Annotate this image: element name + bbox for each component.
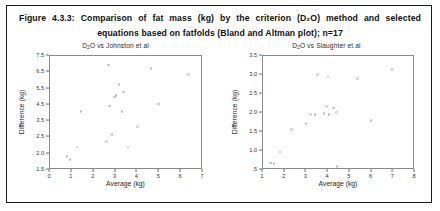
y-tick-mark	[46, 103, 49, 104]
data-point	[309, 113, 312, 116]
y-tick-label: 1.0	[220, 147, 257, 153]
figure-caption: Figure 4.3.3: Comparison of fat mass (kg…	[19, 12, 421, 40]
x-tick-label: 8	[412, 173, 415, 179]
data-point	[356, 77, 359, 80]
y-tick-mark	[259, 131, 262, 132]
data-point	[105, 140, 108, 143]
x-tick-label: 6	[179, 173, 182, 179]
data-point	[111, 133, 114, 136]
y-tick-label: 2.5	[9, 133, 44, 139]
x-tick-mark	[370, 169, 371, 172]
y-tick-mark	[259, 150, 262, 151]
x-tick-mark	[202, 169, 203, 172]
y-tick-label: 1.5	[220, 128, 257, 134]
data-point	[269, 162, 272, 165]
data-point	[325, 105, 328, 108]
y-axis-title: Difference (kg)	[231, 55, 238, 169]
panel-title-johnston: D2O vs Johnston et al	[9, 42, 222, 50]
x-tick-label: 2	[91, 173, 94, 179]
y-tick-label: 3.5	[220, 52, 257, 58]
y-tick-label: 6.5	[9, 68, 44, 74]
x-tick-label: 1	[260, 173, 263, 179]
y-tick-mark	[46, 55, 49, 56]
y-tick-mark	[46, 120, 49, 121]
figure-caption-line-2: equations based on fatfolds (Bland and A…	[19, 27, 421, 41]
x-tick-mark	[414, 169, 415, 172]
x-tick-mark	[392, 169, 393, 172]
data-point	[391, 68, 394, 71]
x-tick-mark	[180, 169, 181, 172]
y-tick-mark	[259, 74, 262, 75]
x-tick-label: 3	[113, 173, 116, 179]
figure-frame: Figure 4.3.3: Comparison of fat mass (kg…	[6, 5, 432, 203]
data-point	[66, 155, 69, 158]
scatter-panel-slaughter: D2O vs Slaughter et al .51.01.52.02.53.0…	[220, 42, 433, 210]
x-tick-label: 0	[47, 173, 50, 179]
data-point	[121, 110, 124, 113]
panel-title-slaughter: D2O vs Slaughter et al	[220, 42, 433, 50]
y-tick-mark	[259, 93, 262, 94]
x-tick-label: 6	[369, 173, 372, 179]
y-axis-title: Difference (kg)	[18, 55, 25, 169]
y-tick-label: 2.0	[9, 150, 44, 156]
data-point	[157, 103, 160, 106]
x-tick-label: 5	[347, 173, 350, 179]
data-point	[150, 67, 153, 70]
x-tick-label: 4	[326, 173, 329, 179]
y-tick-mark	[46, 71, 49, 72]
y-tick-label: 1.5	[9, 166, 44, 172]
x-tick-mark	[262, 169, 263, 172]
data-point	[290, 128, 293, 131]
x-tick-label: 3	[304, 173, 307, 179]
data-point	[335, 111, 338, 114]
x-tick-label: 2	[282, 173, 285, 179]
y-tick-label: 3.0	[220, 71, 257, 77]
x-tick-label: 5	[157, 173, 160, 179]
y-tick-label: 5.5	[9, 85, 44, 91]
scatter-panel-johnston: D2O vs Johnston et al 1.52.02.53.54.55.5…	[9, 42, 222, 210]
x-axis-title: Average (kg)	[49, 180, 202, 187]
plot-area-johnston	[49, 55, 202, 169]
data-point	[316, 73, 319, 76]
x-tick-mark	[49, 169, 50, 172]
x-tick-label: 1	[69, 173, 72, 179]
data-point	[187, 73, 190, 76]
x-tick-mark	[305, 169, 306, 172]
data-point	[328, 113, 331, 116]
y-tick-mark	[259, 55, 262, 56]
x-tick-mark	[283, 169, 284, 172]
x-tick-mark	[70, 169, 71, 172]
x-tick-label: 4	[135, 173, 138, 179]
y-tick-label: .5	[220, 166, 257, 172]
data-point	[118, 83, 121, 86]
plot-area-slaughter	[262, 55, 414, 169]
panel-title-suffix: O vs Johnston et al	[90, 42, 149, 49]
x-tick-label: 7	[200, 173, 203, 179]
data-point	[115, 94, 118, 97]
y-tick-mark	[46, 152, 49, 153]
y-tick-label: 2.5	[220, 90, 257, 96]
x-tick-mark	[348, 169, 349, 172]
y-tick-label: 2.0	[220, 109, 257, 115]
x-tick-label: 7	[391, 173, 394, 179]
y-tick-label: 3.5	[9, 117, 44, 123]
x-tick-mark	[92, 169, 93, 172]
panel-title-suffix: O vs Slaughter et al	[300, 42, 361, 49]
figure-caption-line-1: Figure 4.3.3: Comparison of fat mass (kg…	[19, 12, 421, 26]
y-tick-mark	[46, 136, 49, 137]
y-tick-mark	[259, 112, 262, 113]
y-tick-label: 7.5	[9, 52, 44, 58]
x-axis-title: Average (kg)	[262, 180, 414, 187]
data-point	[136, 125, 139, 128]
x-tick-mark	[327, 169, 328, 172]
x-tick-mark	[114, 169, 115, 172]
data-point	[305, 122, 308, 125]
y-tick-mark	[46, 87, 49, 88]
y-tick-label: 4.5	[9, 101, 44, 107]
x-tick-mark	[136, 169, 137, 172]
x-tick-mark	[158, 169, 159, 172]
